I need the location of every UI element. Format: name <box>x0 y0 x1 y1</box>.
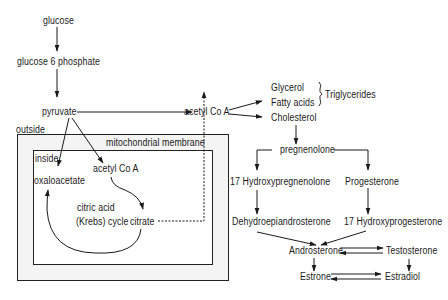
pyruvate-label: pyruvate <box>42 106 76 117</box>
pregnenolone-label: pregnenolone <box>280 144 335 155</box>
mitochondrial-membrane-label: mitochondrial membrane <box>106 137 205 148</box>
testosterone-label: Testosterone <box>386 245 437 256</box>
oxaloacetate-label: oxaloacetate <box>34 175 85 186</box>
17-hydroxyprogesterone-label: 17 Hydroxyprogesterone <box>344 216 442 227</box>
triglycerides-label: Triglycerides <box>325 89 376 100</box>
fatty-acids-label: Fatty acids <box>271 97 315 108</box>
citrate-label: citrate <box>130 216 155 227</box>
citric-acid-label: citric acid <box>77 202 115 213</box>
cholesterol-label: Cholesterol <box>271 112 316 123</box>
progesterone-label: Progesterone <box>345 176 399 187</box>
glucose-6-phosphate-label: glucose 6 phosphate <box>17 56 100 67</box>
glucose-label: glucose <box>43 15 74 26</box>
outside-label: outside <box>16 124 45 135</box>
acetyl-coa-label: acetyl Co A <box>184 106 229 117</box>
17-hydroxypregnenolone-label: 17 Hydroxypregnenolone <box>230 176 330 187</box>
glycerol-label: Glycerol <box>271 82 304 93</box>
estradiol-label: Estradiol <box>385 271 420 282</box>
estrone-label: Estrone <box>300 271 331 282</box>
pathway-arrows <box>0 0 448 300</box>
dhea-label: Dehydroepiandrosterone <box>232 216 331 227</box>
inside-label: inside <box>35 153 59 164</box>
acetyl-coa-inner-label: acetyl Co A <box>93 163 138 174</box>
androsterone-label: Androsterone <box>289 245 343 256</box>
krebs-cycle-label: (Krebs) cycle <box>76 216 128 227</box>
